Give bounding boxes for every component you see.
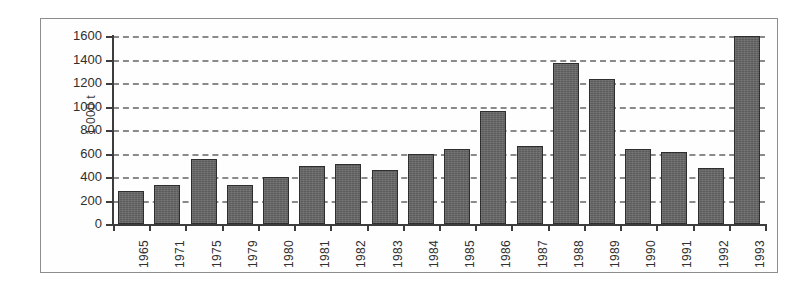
bar bbox=[299, 166, 325, 224]
x-axis-tick-label: 1982 bbox=[354, 254, 368, 268]
y-axis-tick bbox=[106, 36, 114, 38]
x-axis-tick bbox=[584, 224, 586, 231]
y-axis-tick bbox=[106, 60, 114, 62]
plot-area bbox=[113, 36, 765, 224]
y-axis-tick-label: 400 bbox=[42, 170, 102, 183]
x-axis-tick bbox=[330, 224, 332, 231]
gridline bbox=[113, 60, 765, 62]
y-axis-tick-label: 1400 bbox=[42, 53, 102, 66]
x-axis-tick-label: 1965 bbox=[137, 254, 151, 268]
y-axis-tick-label: 1600 bbox=[42, 29, 102, 42]
x-axis-tick bbox=[185, 224, 187, 231]
x-axis-tick-label: 1981 bbox=[318, 254, 332, 268]
y-axis-tick-label: 0 bbox=[42, 217, 102, 230]
x-axis-tick-label: 1980 bbox=[282, 254, 296, 268]
bar bbox=[372, 170, 398, 224]
y-axis-tick-label: 600 bbox=[42, 147, 102, 160]
x-axis-tick bbox=[222, 224, 224, 231]
bar bbox=[227, 185, 253, 224]
bar bbox=[553, 63, 579, 224]
x-axis-tick bbox=[367, 224, 369, 231]
bar bbox=[263, 177, 289, 224]
x-axis-tick bbox=[548, 224, 550, 231]
bar bbox=[191, 159, 217, 224]
bar bbox=[589, 79, 615, 224]
gridline bbox=[113, 107, 765, 109]
x-axis-tick-label: 1992 bbox=[717, 254, 731, 268]
bar bbox=[625, 149, 651, 224]
gridline bbox=[113, 130, 765, 132]
x-axis-tick-label: 1983 bbox=[391, 254, 405, 268]
x-axis-tick bbox=[113, 224, 115, 231]
x-axis-tick-label: 1991 bbox=[680, 254, 694, 268]
x-axis-tick bbox=[511, 224, 513, 231]
x-axis-tick-label: 1971 bbox=[173, 254, 187, 268]
x-axis-tick bbox=[403, 224, 405, 231]
x-axis-tick bbox=[475, 224, 477, 231]
bar bbox=[444, 149, 470, 224]
x-axis-tick bbox=[693, 224, 695, 231]
y-axis-tick-label: 1200 bbox=[42, 76, 102, 89]
x-axis-tick-label: 1986 bbox=[499, 254, 513, 268]
x-axis-tick bbox=[656, 224, 658, 231]
y-axis-tick-label: 800 bbox=[42, 123, 102, 136]
bar bbox=[698, 168, 724, 224]
bar bbox=[734, 36, 760, 224]
y-axis-tick bbox=[106, 130, 114, 132]
y-axis-tick bbox=[106, 154, 114, 156]
x-axis-tick bbox=[258, 224, 260, 231]
x-axis-tick-label: 1993 bbox=[753, 254, 767, 268]
y-axis-tick-label: 200 bbox=[42, 194, 102, 207]
bar bbox=[154, 185, 180, 224]
x-axis-tick bbox=[439, 224, 441, 231]
x-axis-tick bbox=[149, 224, 151, 231]
x-axis-tick-label: 1975 bbox=[210, 254, 224, 268]
y-axis-tick bbox=[106, 107, 114, 109]
x-axis-tick bbox=[729, 224, 731, 231]
x-axis-tick-label: 1979 bbox=[246, 254, 260, 268]
y-axis-tick bbox=[106, 201, 114, 203]
gridline bbox=[113, 36, 765, 38]
x-axis-tick-label: 1984 bbox=[427, 254, 441, 268]
y-axis-tick-label: 1000 bbox=[42, 100, 102, 113]
y-axis-tick-labels: 02004006008001000120014001600 bbox=[40, 0, 102, 290]
x-axis-tick-label: 1985 bbox=[463, 254, 477, 268]
bar bbox=[661, 152, 687, 224]
x-axis-tick-label: 1988 bbox=[572, 254, 586, 268]
x-axis-tick-label: 1990 bbox=[644, 254, 658, 268]
x-axis-tick bbox=[620, 224, 622, 231]
y-axis-tick bbox=[106, 83, 114, 85]
bar bbox=[335, 164, 361, 224]
gridline bbox=[113, 83, 765, 85]
x-axis-tick-label: 1989 bbox=[608, 254, 622, 268]
y-axis-tick bbox=[106, 177, 114, 179]
bar bbox=[408, 154, 434, 225]
bar bbox=[517, 146, 543, 224]
x-axis-tick bbox=[765, 224, 767, 231]
chart-figure: 1 000 t 02004006008001000120014001600 19… bbox=[0, 0, 808, 290]
bar bbox=[480, 111, 506, 224]
x-axis-tick bbox=[294, 224, 296, 231]
x-axis-tick-label: 1987 bbox=[536, 254, 550, 268]
bar bbox=[118, 191, 144, 224]
